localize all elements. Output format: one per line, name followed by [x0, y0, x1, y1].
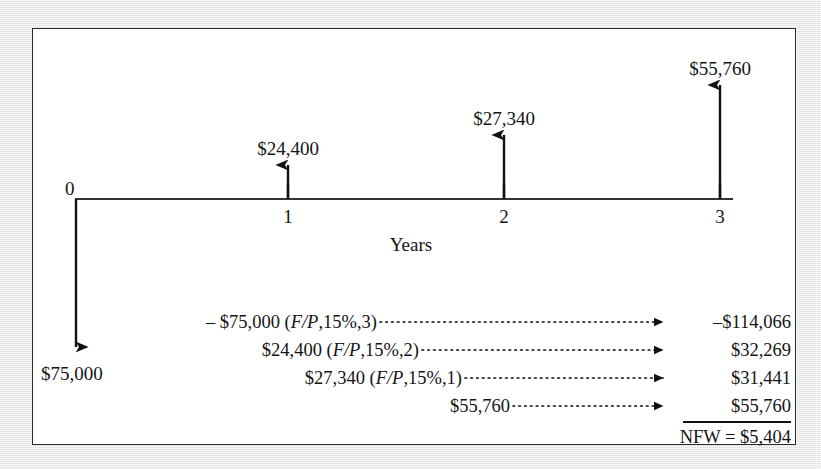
cash-label-period-2: $27,340 [473, 109, 535, 128]
period-label-3: 3 [715, 207, 725, 226]
figure-canvas: 0 1 2 3 Years $24,400 $27,340 $55,760 $7… [33, 29, 795, 444]
period-label-2: 2 [499, 207, 509, 226]
cash-label-period-0: $75,000 [41, 364, 103, 383]
period-label-1: 1 [283, 207, 293, 226]
figure-frame: 0 1 2 3 Years $24,400 $27,340 $55,760 $7… [32, 28, 796, 445]
axis-title-years: Years [390, 235, 432, 254]
period-label-0: 0 [65, 179, 75, 198]
cash-label-period-1: $24,400 [257, 139, 319, 158]
cash-label-period-3: $55,760 [689, 59, 751, 78]
